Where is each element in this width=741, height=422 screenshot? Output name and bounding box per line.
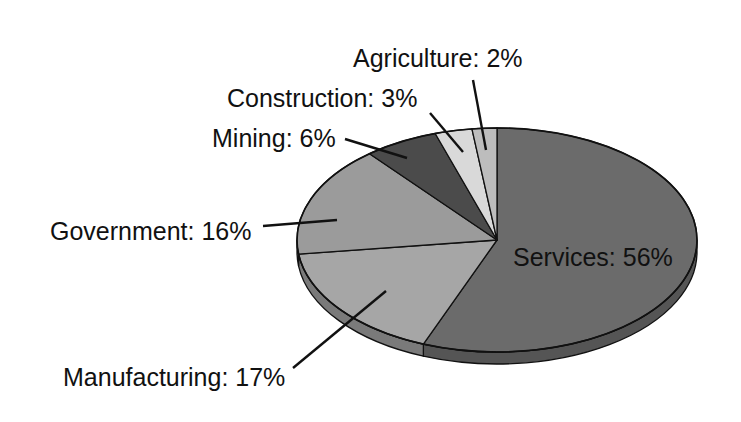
label-construction: Construction: 3% [227,84,417,112]
label-manufacturing: Manufacturing: 17% [63,363,285,391]
pie-top-face [297,128,697,352]
label-mining: Mining: 6% [212,124,336,152]
pie-chart: Agriculture: 2% Construction: 3% Mining:… [0,0,741,422]
label-government: Government: 16% [50,217,252,245]
label-agriculture: Agriculture: 2% [353,44,523,72]
label-services: Services: 56% [513,243,673,271]
